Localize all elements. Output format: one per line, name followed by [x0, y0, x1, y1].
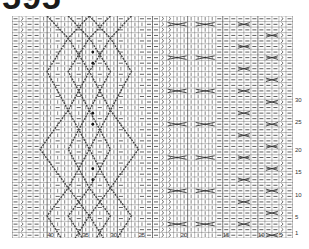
column-number-label: 25	[138, 232, 145, 238]
row-number-label: 25	[295, 119, 302, 125]
row-number-label: 30	[295, 97, 302, 103]
column-number-label: 30	[110, 232, 117, 238]
row-number-label: 20	[295, 147, 302, 153]
pattern-number: 595	[2, 0, 62, 17]
column-number-label: 5	[279, 232, 282, 238]
row-number-label: 1	[295, 230, 298, 236]
column-number-label: 20	[181, 232, 188, 238]
column-number-label: 15	[223, 232, 230, 238]
column-number-label: 40	[47, 232, 54, 238]
column-number-label: 10	[258, 232, 265, 238]
chart-grid	[12, 16, 293, 238]
row-number-label: 5	[295, 214, 298, 220]
row-number-label: 15	[295, 169, 302, 175]
row-number-label: 10	[295, 192, 302, 198]
column-number-label: 35	[82, 232, 89, 238]
knitting-chart	[12, 16, 293, 238]
